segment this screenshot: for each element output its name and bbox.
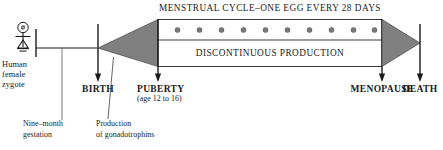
menstrual-cycle-banner-label: MENSTRUAL CYCLE–ONE EGG EVERY 28 DAYS <box>158 3 382 13</box>
egg-dot <box>307 28 312 33</box>
human-female-zygote-label-line1: Human <box>2 60 46 69</box>
decline-wedge <box>382 20 420 67</box>
milestone-label-death: DEATH <box>398 84 442 95</box>
gonadotrophin-wedge <box>98 20 158 67</box>
egg-dot <box>285 28 290 33</box>
discontinuous-production-label: DISCONTINUOUS PRODUCTION <box>158 48 382 58</box>
human-female-zygote-label-line3: zygote <box>2 80 46 89</box>
reproductive-timeline-figure: MENSTRUAL CYCLE–ONE EGG EVERY 28 DAYS DI… <box>0 0 443 150</box>
milestone-sublabel-puberty-age: (age 12 to 16) <box>137 95 227 104</box>
egg-dot <box>351 28 356 33</box>
egg-dot <box>175 28 180 33</box>
annotation-gonadotrophins-line1: Production <box>96 120 206 129</box>
annotation-gonadotrophins-line2: of gonadotrophins <box>96 131 226 140</box>
annotation-gestation-line2: gestation <box>23 131 103 140</box>
milestone-label-birth: BIRTH <box>70 84 126 95</box>
egg-dot <box>197 28 202 33</box>
egg-dot <box>263 28 268 33</box>
zygote-figure-icon <box>16 22 31 51</box>
annotation-gestation-line1: Nine–month <box>23 120 103 129</box>
human-female-zygote-label-line2: female <box>2 70 46 79</box>
reproductive-span-box <box>158 20 382 67</box>
egg-dot <box>241 28 246 33</box>
egg-dot <box>219 28 224 33</box>
birth-marker-line <box>95 24 101 82</box>
egg-dot <box>372 28 377 33</box>
egg-dot <box>329 28 334 33</box>
death-marker-line <box>417 24 423 82</box>
